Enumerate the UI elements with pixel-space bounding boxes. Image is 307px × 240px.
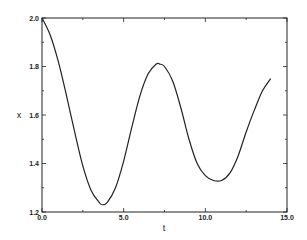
line-chart: 0.05.010.015.01.21.41.61.82.0 t x — [0, 0, 307, 240]
y-axis-label: x — [17, 110, 22, 120]
y-tick-label: 1.6 — [29, 112, 39, 119]
y-tick-label: 1.4 — [29, 160, 39, 167]
tick-labels: 0.05.010.015.01.21.41.61.82.0 — [29, 15, 294, 222]
y-tick-label: 1.8 — [29, 63, 39, 70]
y-tick-label: 1.2 — [29, 209, 39, 216]
x-tick-label: 5.0 — [119, 214, 129, 221]
axis-ticks — [42, 18, 287, 212]
x-tick-label: 10.0 — [199, 214, 213, 221]
y-tick-label: 2.0 — [29, 15, 39, 22]
data-line — [42, 18, 271, 205]
plot-frame — [42, 18, 287, 212]
x-tick-label: 15.0 — [280, 214, 294, 221]
x-axis-label: t — [163, 223, 166, 233]
